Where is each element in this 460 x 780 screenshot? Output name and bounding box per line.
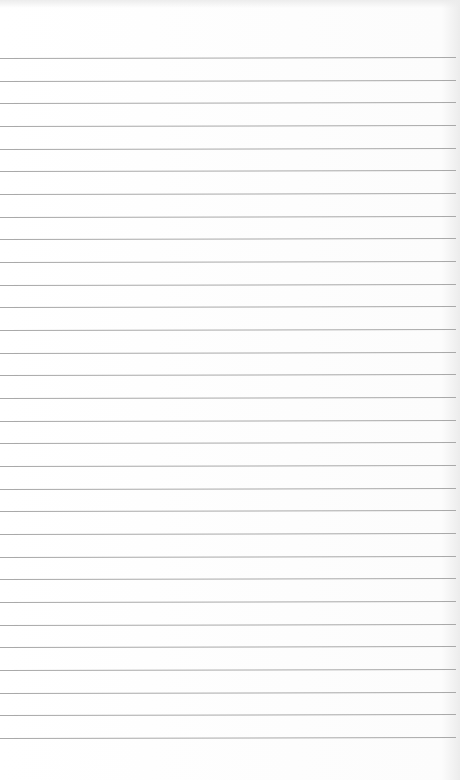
lined-paper-sheet: [0, 0, 460, 780]
ruled-line: [0, 329, 456, 331]
ruled-line: [0, 737, 456, 739]
ruled-line: [0, 488, 456, 490]
ruled-line: [0, 352, 456, 354]
ruled-line: [0, 57, 456, 59]
ruled-line: [0, 193, 456, 195]
ruled-line: [0, 397, 456, 399]
ruled-line: [0, 238, 456, 240]
ruled-line: [0, 148, 456, 150]
ruled-line: [0, 692, 456, 694]
ruled-line: [0, 216, 456, 218]
ruled-line: [0, 669, 456, 671]
ruled-line: [0, 420, 456, 422]
ruled-line: [0, 125, 456, 127]
top-edge-shadow: [0, 0, 460, 8]
ruled-line: [0, 510, 456, 512]
ruled-line: [0, 624, 456, 626]
ruled-line: [0, 442, 456, 444]
ruled-line: [0, 578, 456, 580]
ruled-line: [0, 284, 456, 286]
ruled-line: [0, 533, 456, 535]
ruled-line: [0, 601, 456, 603]
ruled-line: [0, 261, 456, 263]
ruled-line: [0, 465, 456, 467]
ruled-line: [0, 102, 456, 104]
ruled-line: [0, 306, 456, 308]
ruled-line: [0, 80, 456, 82]
ruled-line: [0, 374, 456, 376]
ruled-line: [0, 646, 456, 648]
ruled-line: [0, 556, 456, 558]
ruled-line: [0, 170, 456, 172]
ruled-line: [0, 714, 456, 716]
